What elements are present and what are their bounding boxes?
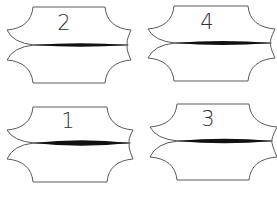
panel-1: 1 bbox=[7, 107, 133, 182]
lower-plate-outline bbox=[7, 45, 131, 83]
panel-4: 4 bbox=[148, 6, 275, 81]
panel-label: 3 bbox=[201, 107, 214, 131]
weld-seam bbox=[177, 139, 272, 144]
lower-plate-outline bbox=[7, 143, 133, 182]
panel-3: 3 bbox=[150, 104, 277, 180]
panel-2: 2 bbox=[7, 7, 131, 83]
panel-label: 4 bbox=[200, 10, 213, 34]
weld-seam bbox=[33, 140, 130, 146]
panel-label: 1 bbox=[61, 109, 74, 133]
lower-plate-outline bbox=[148, 43, 275, 81]
weld-seam bbox=[174, 41, 271, 45]
weld-seam bbox=[33, 43, 128, 47]
weld-diagram: 2 4 1 3 bbox=[0, 0, 277, 202]
panel-label: 2 bbox=[57, 11, 70, 35]
lower-plate-outline bbox=[150, 141, 277, 180]
